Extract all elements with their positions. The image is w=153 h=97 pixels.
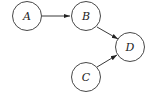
node-d-label: D <box>125 41 135 54</box>
node-b-label: B <box>81 10 90 23</box>
node-d: D <box>116 33 145 62</box>
node-c-label: C <box>82 71 91 84</box>
node-c: C <box>72 63 101 92</box>
edge-c-d <box>97 55 117 67</box>
edge-b-d <box>97 27 118 39</box>
node-b: B <box>72 2 101 31</box>
node-a-label: A <box>22 10 31 23</box>
graph-diagram: A B C D <box>0 0 153 97</box>
node-a: A <box>13 2 42 31</box>
